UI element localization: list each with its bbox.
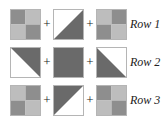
four-patch-block <box>10 9 41 40</box>
four-patch-block <box>96 85 127 116</box>
four-patch-block <box>96 9 127 40</box>
half-square-triangle-block <box>96 47 127 78</box>
plus-sign: + <box>42 55 52 69</box>
half-square-triangle-block <box>53 9 84 40</box>
plus-sign: + <box>85 17 95 31</box>
plus-sign: + <box>42 17 52 31</box>
row-label: Row 2 <box>130 55 160 70</box>
plus-sign: + <box>42 93 52 107</box>
row-2: + + Row 2 <box>0 47 166 79</box>
four-patch-block <box>10 85 41 116</box>
row-label: Row 1 <box>130 17 160 32</box>
half-square-triangle-block <box>53 85 84 116</box>
row-label: Row 3 <box>130 93 160 108</box>
solid-dark-block <box>53 47 84 78</box>
plus-sign: + <box>85 55 95 69</box>
plus-sign: + <box>85 93 95 107</box>
half-square-triangle-block <box>10 47 41 78</box>
row-3: + + Row 3 <box>0 85 166 117</box>
row-1: + + Row 1 <box>0 9 166 41</box>
